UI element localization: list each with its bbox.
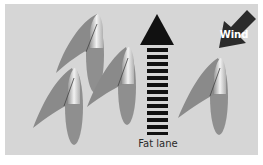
diagram-canvas [0,0,263,165]
fat-lane-label: Fat lane [133,138,183,149]
arrow-head [140,14,174,45]
sailboat-2 [33,68,83,145]
arrow-stripes [147,48,168,135]
fat-lane-arrow [140,14,174,135]
wind-label: Wind [216,29,252,40]
sailboat-4 [178,58,228,135]
